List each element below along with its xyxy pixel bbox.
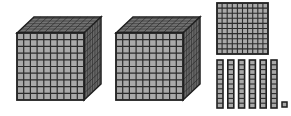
unit-cube — [282, 102, 287, 107]
ten-rod — [249, 60, 255, 108]
ten-rod — [217, 60, 223, 108]
hundred-flat — [217, 3, 268, 54]
ten-rod — [271, 60, 277, 108]
base-ten-blocks-diagram — [0, 0, 291, 116]
ten-rod — [260, 60, 266, 108]
thousand-cube — [116, 17, 200, 100]
ten-rod — [228, 60, 234, 108]
thousand-cube — [17, 17, 101, 100]
blocks-canvas — [0, 0, 291, 116]
ten-rod — [239, 60, 245, 108]
